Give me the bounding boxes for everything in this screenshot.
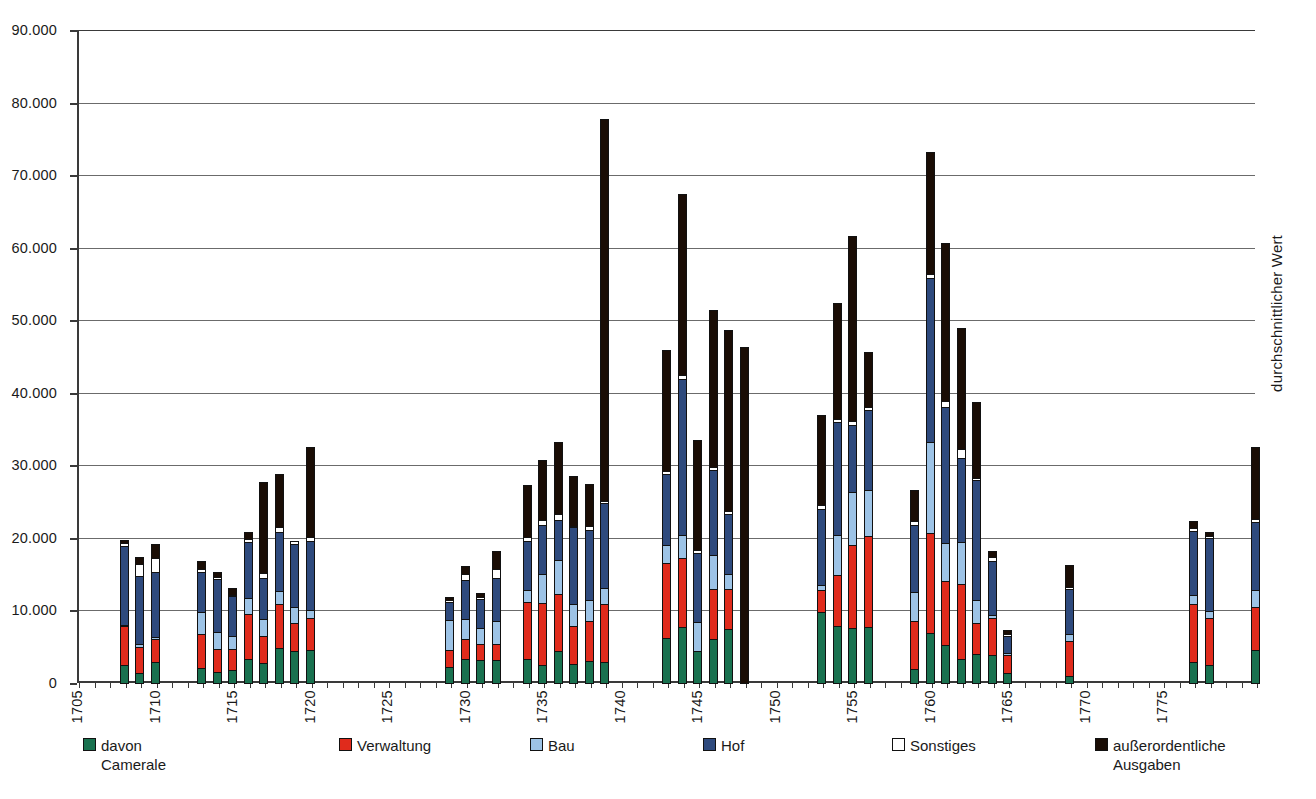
bar-segment-camerale <box>988 655 997 684</box>
legend-item[interactable]: Hof <box>703 736 744 755</box>
bar-segment-camerale <box>1003 673 1012 684</box>
x-tick-mark <box>110 681 111 688</box>
x-tick-label: 1735 <box>534 690 550 723</box>
y-tick-mark <box>70 465 77 467</box>
bar-segment-hof <box>585 530 594 602</box>
bar-segment-camerale <box>1251 650 1260 684</box>
legend-item[interactable]: außerordentliche Ausgaben <box>1095 736 1226 774</box>
legend-swatch-icon <box>1095 738 1108 751</box>
gridline <box>79 320 1255 321</box>
y-tick-mark <box>70 393 77 395</box>
bar-segment-hof <box>1189 531 1198 596</box>
y-tick-label: 90.000 <box>0 30 57 46</box>
bar-segment-bau <box>941 543 950 581</box>
bar-segment-verwaltung <box>910 621 919 670</box>
bar-segment-hof <box>228 596 237 637</box>
bar-segment-camerale <box>662 638 671 684</box>
bar-segment-verwaltung <box>569 626 578 665</box>
bar-segment-hof <box>1065 589 1074 635</box>
y-tick-mark <box>70 248 77 250</box>
bar-segment-verwaltung <box>151 639 160 662</box>
right-axis-caption: durchschnittlicher Wert <box>1268 235 1285 392</box>
bar-segment-bau <box>244 598 253 615</box>
bar-segment-camerale <box>972 654 981 684</box>
bar-segment-verwaltung <box>244 614 253 660</box>
bar-segment-ausserordentliche <box>678 194 687 376</box>
legend-label: außerordentliche Ausgaben <box>1113 736 1226 774</box>
bar-segment-camerale <box>135 673 144 684</box>
bar <box>662 350 671 683</box>
bar-segment-bau <box>290 607 299 624</box>
legend-label: davon Camerale <box>101 736 166 774</box>
x-tick-mark <box>808 681 809 688</box>
bar <box>833 303 842 683</box>
x-tick-mark <box>792 681 793 688</box>
x-tick-mark <box>1040 681 1041 688</box>
bar-segment-ausserordentliche <box>957 328 966 449</box>
bar-segment-bau <box>926 442 935 533</box>
bar-segment-hof <box>662 474 671 546</box>
bar-segment-ausserordentliche <box>972 402 981 480</box>
bar-segment-ausserordentliche <box>600 119 609 501</box>
bar <box>972 402 981 683</box>
legend-label: Sonstiges <box>910 736 976 755</box>
x-tick-label: 1740 <box>612 690 628 723</box>
bar-segment-bau <box>1251 590 1260 609</box>
gridline <box>79 103 1255 104</box>
gridline <box>79 30 1255 31</box>
legend-item[interactable]: Verwaltung <box>339 736 431 755</box>
bar-segment-bau <box>461 619 470 641</box>
bar-segment-verwaltung <box>461 639 470 660</box>
bar-segment-verwaltung <box>600 604 609 662</box>
bar-segment-verwaltung <box>833 575 842 627</box>
legend-item[interactable]: davon Camerale <box>83 736 166 774</box>
bar-segment-camerale <box>910 669 919 684</box>
bar-segment-hof <box>120 546 129 626</box>
bar-segment-camerale <box>290 651 299 684</box>
legend-item[interactable]: Bau <box>530 736 575 755</box>
x-tick-mark <box>358 681 359 688</box>
bar-segment-verwaltung <box>538 603 547 666</box>
bar-segment-bau <box>569 604 578 626</box>
y-tick-label: 50.000 <box>0 320 57 336</box>
bar-segment-camerale <box>569 664 578 684</box>
bar-segment-hof <box>988 561 997 616</box>
bar-segment-verwaltung <box>848 545 857 629</box>
x-tick-mark <box>172 681 173 688</box>
bar-segment-verwaltung <box>957 584 966 659</box>
y-tick-mark <box>70 610 77 612</box>
bar-segment-verwaltung <box>817 590 826 613</box>
bar-segment-hof <box>135 576 144 645</box>
y-tick-mark <box>70 175 77 177</box>
bar-segment-verwaltung <box>988 618 997 656</box>
bar <box>135 557 144 683</box>
bar-segment-bau <box>476 628 485 645</box>
bar-segment-hof <box>1003 636 1012 653</box>
bar-segment-hof <box>709 470 718 556</box>
bar-segment-camerale <box>941 645 950 684</box>
bar <box>259 482 268 683</box>
bar-segment-verwaltung <box>120 626 129 666</box>
bar-segment-camerale <box>523 659 532 684</box>
bar <box>197 561 206 683</box>
bar <box>1003 630 1012 683</box>
bar <box>306 447 315 683</box>
bar <box>120 540 129 683</box>
y-tick-mark <box>70 538 77 540</box>
x-tick-mark <box>343 681 344 688</box>
x-tick-label: 1745 <box>689 690 705 723</box>
y-tick-label: 10.000 <box>0 610 57 626</box>
bar <box>910 490 919 683</box>
x-tick-mark <box>1056 681 1057 688</box>
bar-segment-ausserordentliche <box>941 243 950 402</box>
bar-segment-hof <box>461 580 470 620</box>
bar-segment-bau <box>585 600 594 622</box>
bar-segment-verwaltung <box>290 623 299 652</box>
bar-segment-bau <box>957 542 966 585</box>
bar <box>600 119 609 683</box>
bar-segment-hof <box>1205 538 1214 612</box>
bar-segment-camerale <box>848 628 857 684</box>
bar-segment-verwaltung <box>972 623 981 656</box>
legend-item[interactable]: Sonstiges <box>892 736 976 755</box>
bar-segment-verwaltung <box>926 533 935 634</box>
